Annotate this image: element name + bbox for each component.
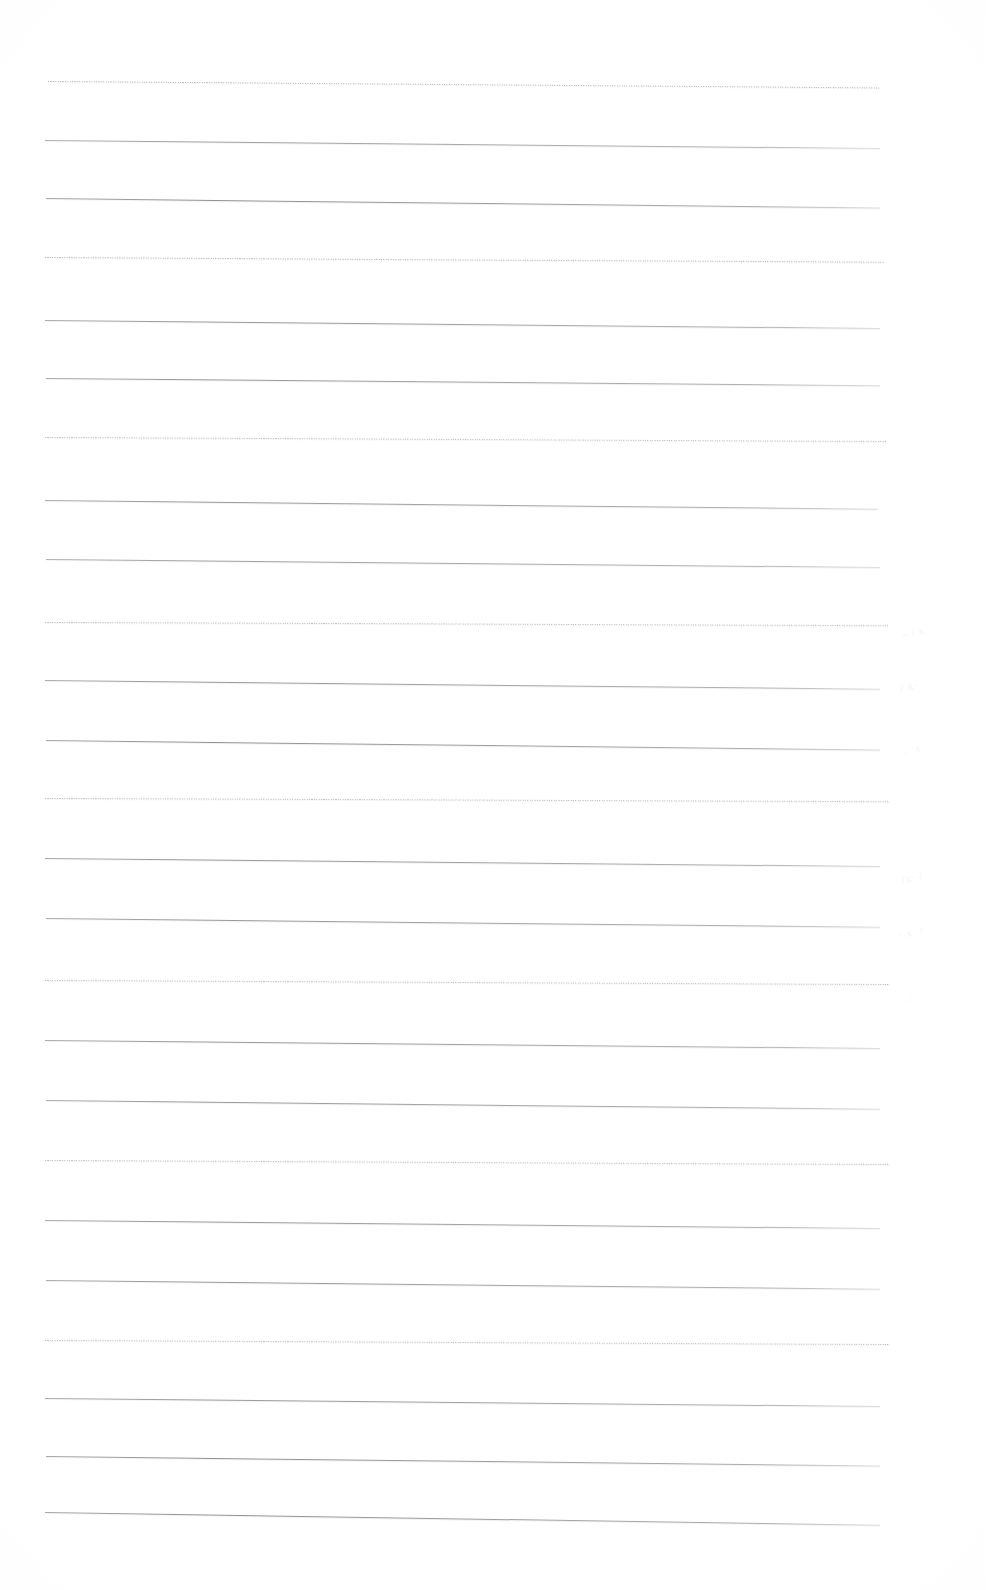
rule-line-ink [45,1340,890,1345]
rule-line-shadow [45,681,880,691]
rule-line-ink [45,1160,890,1165]
rule-line-shadow [45,141,880,150]
rule-line [45,680,880,691]
rule-line [45,320,880,330]
rule-line [46,1100,880,1111]
rule-line-ink [45,1220,880,1229]
rule-line-ink [46,378,880,386]
rule-line-ink [46,198,880,209]
faint-margin-mark: ~ / x [901,625,926,641]
rule-line-shadow [45,438,886,443]
rule-line [45,1040,880,1050]
rule-line [45,437,886,443]
rule-line [46,559,880,569]
rule-line-shadow [45,1161,890,1166]
rule-line [46,1280,880,1291]
rule-line [45,140,880,150]
faint-margin-mark: /x· / [901,870,924,885]
rule-line-shadow [46,379,880,387]
rule-line-shadow [46,1101,880,1111]
rule-line-ink [45,622,888,626]
rule-line-ink [45,798,890,802]
rule-line-shadow [45,258,884,264]
rule-line [46,740,880,752]
rule-line-shadow [45,799,890,803]
rule-line [45,500,878,511]
rule-line-shadow [45,501,878,511]
rule-line-ink [46,918,880,928]
rule-line-ink [45,320,880,329]
rule-line [45,798,890,803]
faint-margin-mark: ·/ [904,994,913,1005]
rule-line [45,1398,880,1408]
paper-texture [0,0,986,1590]
rule-line [45,1160,890,1166]
rule-line [46,918,880,929]
rule-line-ink [46,559,880,568]
rule-line [46,198,880,210]
rule-line-shadow [45,321,880,330]
rule-line-ink [46,1456,880,1467]
rule-line [46,1456,880,1468]
rule-line-ink [45,437,886,442]
rule-line-ink [45,680,880,690]
rule-line-ink [46,740,880,751]
rule-line [45,1340,890,1346]
rule-line-shadow [46,919,880,929]
rule-line [45,1220,880,1230]
rule-line [46,378,880,387]
rule-line-ink [48,81,880,88]
rule-line [45,1512,880,1527]
rule-line-shadow [46,560,880,569]
rule-line [45,257,884,264]
faint-margin-mark: / x́· [898,678,920,695]
rule-line-shadow [46,1457,880,1468]
rule-line-shadow [46,741,880,752]
faint-margin-mark: · x ·/ [898,924,925,941]
rule-line-ink [45,1398,880,1407]
faint-margin-mark: , ·x [903,742,922,756]
rule-line-ink [45,1040,880,1049]
rule-line-ink [45,257,884,263]
rule-line-ink [45,980,890,985]
rule-line-ink [45,500,878,510]
rule-line-ink [45,858,880,867]
rule-line-shadow [46,1281,880,1291]
scanned-page: ~ / x/ x́·, ·x/x· /· x ·/·/ [0,0,986,1590]
rule-line-shadow [46,199,880,210]
rule-line [45,858,880,868]
rule-line-shadow [45,623,888,627]
rule-line-shadow [45,1221,880,1230]
rule-line-ink [45,1512,880,1526]
rule-line [48,81,880,89]
rule-line-shadow [45,1513,880,1527]
rule-line [45,622,888,627]
rule-line-shadow [45,1341,890,1346]
rule-line-shadow [45,981,890,986]
rule-line-shadow [45,1041,880,1050]
rule-line-ink [46,1280,880,1290]
rule-line-ink [46,1100,880,1110]
rule-line [45,980,890,986]
rule-line-shadow [45,859,880,868]
rule-line-shadow [48,82,880,89]
rule-line-ink [45,140,880,149]
rule-line-shadow [45,1399,880,1408]
